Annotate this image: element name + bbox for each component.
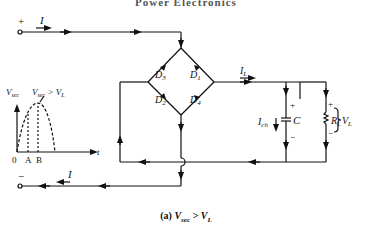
- capacitor-label: C: [293, 114, 301, 126]
- diode-d3-label: D3: [154, 69, 166, 82]
- input-plus-label: +: [18, 15, 24, 27]
- inset-tick-a: A: [25, 155, 32, 165]
- caption-condition: Vsec > VL: [174, 210, 211, 221]
- inset-curve: [17, 103, 55, 152]
- cap-current-label: Ich: [257, 116, 268, 129]
- current-in-label: I: [39, 14, 45, 26]
- cap-minus-label: −: [290, 132, 295, 142]
- resistor-rl: [324, 112, 328, 124]
- caption-prefix: (a): [160, 210, 172, 221]
- inset-y-label: Vsec: [6, 87, 19, 98]
- inset-curve-label: Vsec > VL: [32, 87, 65, 98]
- current-out-label: I: [67, 168, 73, 180]
- res-plus-label: +: [328, 99, 333, 109]
- input-minus-label: −: [18, 170, 24, 182]
- figure-caption: (a) Vsec > VL: [0, 210, 372, 224]
- diode-d1-label: D1: [189, 69, 201, 82]
- input-plus-terminal: [18, 30, 22, 34]
- inset-tick-b: B: [36, 155, 42, 165]
- input-minus-terminal: [18, 184, 22, 188]
- load-voltage-label: VL: [342, 115, 352, 128]
- cap-plus-label: +: [290, 100, 295, 110]
- bridge-rectifier-diagram: + I − I D3 D1 D2 D4 IL Ich C + − + − RL …: [0, 0, 372, 234]
- inset-x-label: t: [97, 147, 100, 157]
- res-minus-label: −: [328, 128, 333, 138]
- resistor-label: RL: [330, 115, 341, 128]
- inset-tick-0: 0: [12, 155, 17, 165]
- load-current-label: IL: [239, 65, 247, 78]
